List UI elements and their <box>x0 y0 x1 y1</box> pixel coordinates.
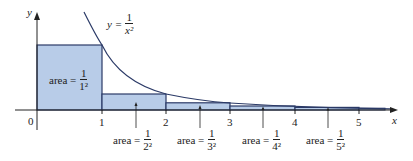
x-axis-arrow-icon <box>390 107 398 113</box>
rect-2 <box>102 94 166 110</box>
y-axis-label: y <box>27 6 32 18</box>
x-tick-1: 1 <box>99 116 105 128</box>
x-tick-4: 4 <box>292 116 298 128</box>
rectangles <box>37 45 385 110</box>
area-label-2: area = 12² <box>113 128 152 152</box>
area-label-5: area = 15² <box>306 128 345 152</box>
curve-label: y = 1x² <box>107 12 133 36</box>
x-tick-5: 5 <box>356 116 362 128</box>
x-axis-label: x <box>392 114 397 126</box>
area-label-3: area = 13² <box>177 128 216 152</box>
x-tick-2: 2 <box>163 116 169 128</box>
area-label-4: area = 14² <box>242 128 281 152</box>
rect-3 <box>166 103 230 110</box>
x-tick-3: 3 <box>227 116 233 128</box>
area-label-1: area = 11² <box>49 68 88 92</box>
y-axis-arrow-icon <box>34 12 40 20</box>
origin-label: 0 <box>28 115 34 127</box>
